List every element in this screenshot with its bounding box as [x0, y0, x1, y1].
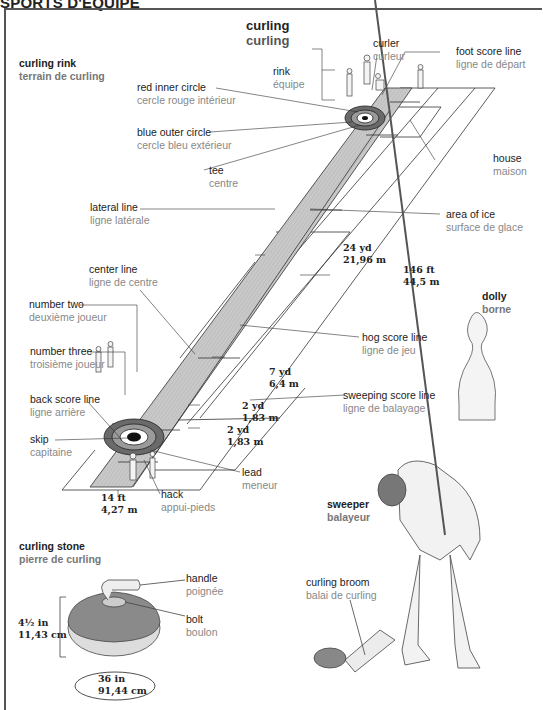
label-foot-score-line: foot score line ligne de départ	[456, 45, 525, 71]
title: curling curling	[246, 18, 289, 48]
label-center-line: center line ligne de centre	[89, 263, 158, 289]
label-curling-broom: curling broom balai de curling	[306, 576, 377, 602]
label-area-of-ice: area of ice surface de glace	[446, 208, 523, 234]
label-skip: skip capitaine	[30, 433, 72, 459]
label-house: house maison	[493, 152, 527, 178]
section-dolly: dolly borne	[482, 290, 511, 316]
label-number-three: number three troisième joueur	[30, 345, 105, 371]
label-hack: hack appui-pieds	[161, 488, 215, 514]
dolly-figure	[458, 313, 495, 421]
label-number-two: number two deuxième joueur	[29, 298, 107, 324]
label-back-score-line: back score line ligne arrière	[30, 393, 100, 419]
label-sweeping-score-line: sweeping score line ligne de balayage	[343, 389, 435, 415]
measure-tee-to-hog: 24 yd 21,96 m	[343, 242, 386, 266]
measure-rink-length: 146 ft 44,5 m	[403, 264, 440, 288]
label-lateral-line: lateral line ligne latérale	[90, 201, 150, 227]
far-house	[345, 106, 385, 130]
label-hog-score-line: hog score line ligne de jeu	[362, 331, 427, 357]
label-tee: tee centre	[209, 164, 238, 190]
measure-stone-circumference: 36 in 91,44 cm	[98, 673, 147, 697]
measure-sweep-to-tee: 2 yd 1,83 m	[242, 400, 279, 424]
label-curler: curler curleur	[373, 37, 405, 63]
label-bolt: bolt boulon	[186, 613, 218, 639]
section-curling-rink: curling rink terrain de curling	[19, 57, 105, 83]
measure-stone-height: 4½ in 11,43 cm	[18, 617, 67, 641]
label-blue-outer-circle: blue outer circle cercle bleu extérieur	[137, 126, 232, 152]
measure-hog-to-sweep: 7 yd 6,4 m	[269, 366, 299, 390]
measure-rink-width: 14 ft 4,27 m	[101, 492, 138, 516]
label-red-inner-circle: red inner circle cercle rouge intérieur	[137, 81, 236, 107]
label-lead: lead meneur	[242, 466, 278, 492]
section-sweeper: sweeper balayeur	[327, 498, 370, 524]
label-rink: rink équipe	[273, 65, 305, 91]
near-house	[104, 419, 164, 455]
label-handle: handle poignée	[186, 572, 223, 598]
section-curling-stone: curling stone pierre de curling	[19, 540, 101, 566]
measure-tee-to-back: 2 yd 1,83 m	[227, 424, 264, 448]
